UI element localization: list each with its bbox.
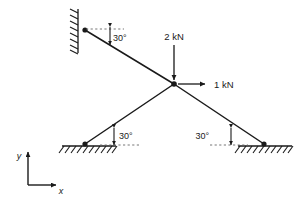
central-joint-node — [171, 81, 177, 87]
y-axis-label: y — [16, 151, 22, 161]
x-axis-label: x — [58, 186, 64, 196]
member-upper-left — [85, 30, 174, 84]
member-lower-right — [174, 84, 264, 144]
wall-support — [70, 9, 88, 54]
force-label-horizontal: 1 kN — [214, 79, 234, 90]
left-ground-hatching — [59, 146, 117, 153]
angle-label-upper-left: 30° — [113, 33, 127, 43]
left-ground-support — [59, 141, 117, 153]
right-ground-hatching — [235, 146, 293, 153]
truss-diagram: 30° 30° 30° 2 kN 1 kN y x — [0, 0, 299, 203]
force-label-vertical: 2 kN — [164, 31, 184, 42]
wall-hatching — [70, 9, 78, 54]
angle-label-lower-left: 30° — [119, 131, 133, 141]
angle-label-lower-right: 30° — [195, 131, 209, 141]
free-body-diagram-canvas: 30° 30° 30° 2 kN 1 kN y x — [0, 0, 299, 203]
coordinate-axes — [28, 152, 56, 185]
